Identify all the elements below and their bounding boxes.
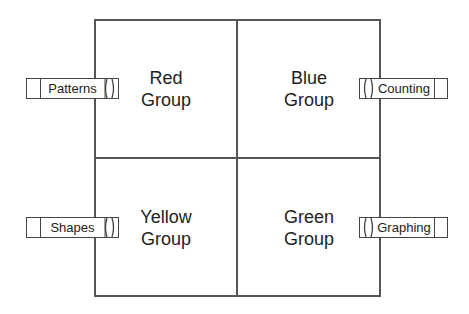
shapes-label: Shapes <box>26 217 119 238</box>
yellow-group-line2: Group <box>141 229 191 249</box>
label-cap <box>434 218 447 237</box>
scroll-curl-icon <box>104 218 118 237</box>
shapes-text: Shapes <box>41 220 104 235</box>
green-group-line2: Group <box>284 229 334 249</box>
scroll-curl-icon <box>104 79 118 98</box>
patterns-label: Patterns <box>26 78 119 99</box>
red-group-line1: Red <box>149 68 182 88</box>
green-group-line1: Green <box>284 207 334 227</box>
label-cap <box>27 218 41 237</box>
graphing-label: Graphing <box>359 217 448 238</box>
blue-group-line1: Blue <box>291 68 327 88</box>
patterns-text: Patterns <box>41 81 104 96</box>
blue-group-line2: Group <box>284 90 334 110</box>
counting-label: Counting <box>359 78 448 99</box>
scroll-curl-icon <box>360 218 374 237</box>
scroll-curl-icon <box>360 79 374 98</box>
graphing-text: Graphing <box>374 220 434 235</box>
label-cap <box>434 79 447 98</box>
label-cap <box>27 79 41 98</box>
red-group-line2: Group <box>141 90 191 110</box>
yellow-group-line1: Yellow <box>140 207 191 227</box>
counting-text: Counting <box>374 81 434 96</box>
